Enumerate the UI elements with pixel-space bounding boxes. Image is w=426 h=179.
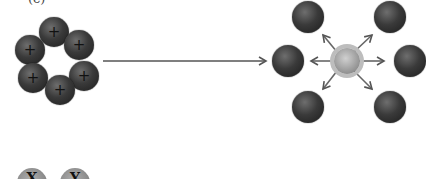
arrows-layer: [0, 0, 426, 179]
ion-ball: [394, 45, 426, 77]
ion-ball: [292, 1, 324, 33]
ion-ball: [292, 91, 324, 123]
bottom-ball-y: Y: [60, 168, 90, 179]
ion-ball: [374, 91, 406, 123]
ion-ball: [272, 45, 304, 77]
ion-ball: [374, 1, 406, 33]
central-particle: [334, 48, 360, 74]
bottom-ball-x: X: [17, 168, 47, 179]
